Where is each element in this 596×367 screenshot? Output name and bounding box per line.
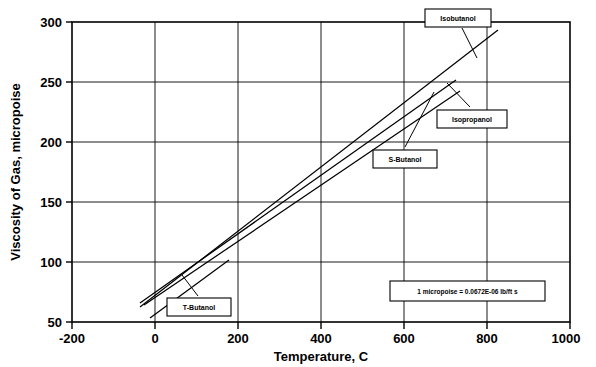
callout-t-butanol[interactable]: T-Butanol — [167, 298, 231, 316]
xtick-800: 800 — [476, 331, 498, 346]
callout-t-butanol-label: T-Butanol — [183, 304, 215, 311]
ytick-250: 250 — [40, 75, 62, 90]
chart-background — [0, 0, 596, 367]
viscosity-chart: Isobutanol Isopropanol S-Butanol T-Butan… — [0, 0, 596, 367]
conversion-note: 1 micropoise = 0.0672E-06 lb/ft s — [390, 281, 545, 301]
xtick-neg200: -200 — [59, 331, 85, 346]
ytick-100: 100 — [40, 255, 62, 270]
xtick-600: 600 — [393, 331, 415, 346]
callout-s-butanol[interactable]: S-Butanol — [373, 150, 437, 168]
y-axis-title: Viscosity of Gas, micropoise — [8, 83, 23, 261]
xtick-400: 400 — [310, 331, 332, 346]
callout-isopropanol-label: Isopropanol — [452, 116, 492, 124]
ytick-300: 300 — [40, 15, 62, 30]
ytick-50: 50 — [48, 315, 62, 330]
x-axis-title: Temperature, C — [274, 349, 369, 364]
xtick-1000: 1000 — [552, 331, 581, 346]
callout-s-butanol-label: S-Butanol — [388, 156, 421, 163]
conversion-note-text: 1 micropoise = 0.0672E-06 lb/ft s — [417, 288, 518, 296]
ytick-150: 150 — [40, 195, 62, 210]
callout-isobutanol-label: Isobutanol — [440, 15, 475, 22]
callout-isobutanol[interactable]: Isobutanol — [425, 9, 491, 27]
callout-isopropanol[interactable]: Isopropanol — [437, 110, 507, 128]
xtick-0: 0 — [151, 331, 158, 346]
ytick-200: 200 — [40, 135, 62, 150]
xtick-200: 200 — [227, 331, 249, 346]
